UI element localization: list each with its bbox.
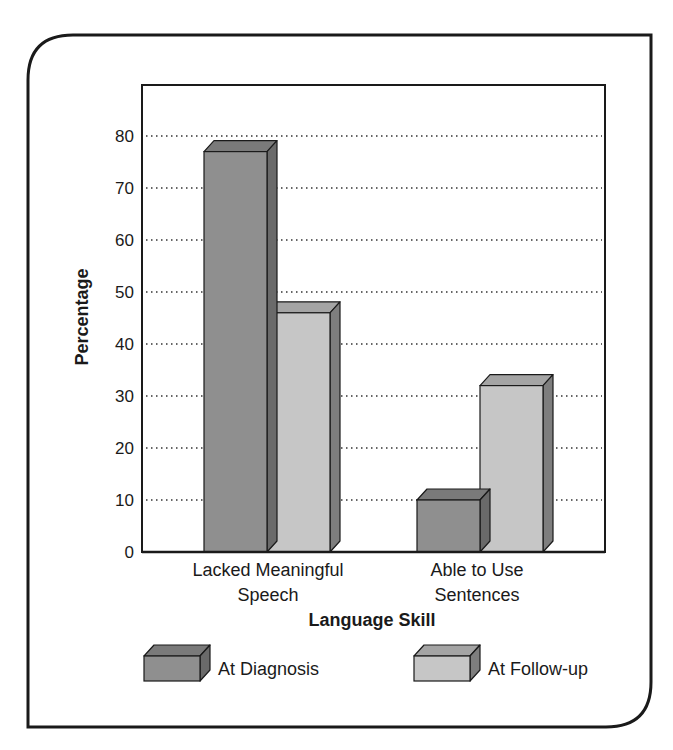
- y-tick-label: 80: [115, 127, 134, 146]
- y-tick-label: 60: [115, 231, 134, 250]
- legend-swatch: [414, 645, 480, 681]
- bar-1-1: [480, 375, 553, 552]
- legend-label: At Diagnosis: [218, 659, 319, 679]
- y-axis-title: Percentage: [72, 268, 92, 365]
- x-axis-title: Language Skill: [308, 610, 435, 630]
- bar-0-0: [204, 141, 277, 552]
- legend-label: At Follow-up: [488, 659, 588, 679]
- y-tick-label: 0: [125, 543, 134, 562]
- y-tick-label: 20: [115, 439, 134, 458]
- bar-1-0: [417, 489, 490, 552]
- x-category-label: Lacked Meaningful: [192, 560, 343, 580]
- y-tick-label: 50: [115, 283, 134, 302]
- y-tick-label: 70: [115, 179, 134, 198]
- x-category-label: Able to Use: [430, 560, 523, 580]
- x-category-label: Sentences: [434, 585, 519, 605]
- y-tick-label: 30: [115, 387, 134, 406]
- bar-0-1: [267, 302, 340, 552]
- y-tick-label: 10: [115, 491, 134, 510]
- chart-figure: 01020304050607080 Lacked MeaningfulSpeec…: [0, 0, 673, 750]
- x-category-label: Speech: [237, 585, 298, 605]
- y-axis-ticks: 01020304050607080: [115, 127, 134, 562]
- legend-swatch: [144, 645, 210, 681]
- y-tick-label: 40: [115, 335, 134, 354]
